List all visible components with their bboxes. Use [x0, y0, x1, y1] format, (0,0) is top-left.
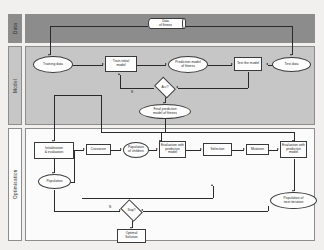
- band-label-data: Data: [8, 14, 22, 43]
- band-label-model-text: Model: [13, 78, 18, 92]
- node-population-next-iteration-label: Population of next iteration: [284, 197, 304, 205]
- arrowhead-crossover: [83, 148, 85, 150]
- arrowhead-selection-feedback: [211, 184, 213, 186]
- flowchart-canvas: Data Model Optimisation N Y: [0, 0, 324, 250]
- node-decision-stop[interactable]: Stop?: [122, 204, 141, 217]
- edge-data-to-testdata-v: [292, 26, 293, 55]
- node-evaluation-children[interactable]: Evaluation with predictive model: [159, 141, 186, 158]
- edge-data-to-training-h: [50, 26, 148, 27]
- edge-final-to-init-h: [54, 95, 101, 96]
- edge-test-down: [248, 72, 249, 88]
- node-prediction-model-of-fitness[interactable]: Prediction model of fitness: [168, 56, 208, 73]
- edge-prediction-to-test: [208, 65, 232, 66]
- arrowhead-test-the-model-left: [266, 63, 268, 65]
- edge-selection-feedback-v: [213, 186, 214, 198]
- band-label-model: Model: [8, 46, 22, 125]
- arrowhead-prediction-model: [165, 63, 167, 65]
- node-selection[interactable]: Selection: [203, 143, 232, 156]
- node-optimal-solution[interactable]: Optimal Solution: [117, 229, 146, 243]
- node-decision-accuracy[interactable]: Acc?: [156, 81, 174, 94]
- edge-eval-to-selection: [186, 150, 201, 151]
- edge-population-to-crossover-h: [74, 182, 75, 183]
- node-training-data-label: Training data: [43, 63, 63, 67]
- node-train-initial-model-label: Train initial model: [113, 60, 129, 68]
- edge-next-return-v: [268, 206, 269, 211]
- arrowhead-decision-accuracy: [176, 86, 178, 88]
- edge-final-down: [165, 119, 166, 132]
- edge-selection-feedback-h: [82, 198, 213, 199]
- edge-acc-no-h: [120, 88, 154, 89]
- node-data-of-fitness[interactable]: Data of fitness: [148, 18, 186, 29]
- arrowhead-test-data: [290, 54, 292, 56]
- node-population[interactable]: Population: [38, 174, 71, 189]
- edge-acc-no-v: [120, 75, 121, 88]
- band-label-data-text: Data: [13, 23, 18, 34]
- node-final-prediction-model[interactable]: Final prediction model of fitness: [139, 104, 191, 119]
- node-evaluation-mutated[interactable]: Evaluation with predictive model: [280, 141, 307, 158]
- edge-train-to-prediction: [137, 65, 166, 66]
- node-population-of-children-label: Population of children: [128, 146, 144, 154]
- node-decision-accuracy-label: Acc?: [162, 86, 169, 90]
- arrowhead-eval-mutated-in: [277, 148, 279, 150]
- node-mutation[interactable]: Mutation: [246, 144, 269, 155]
- arrowhead-eval-children-in: [156, 148, 158, 150]
- edge-training-to-train: [73, 65, 103, 66]
- edge-final-bus-h: [101, 132, 294, 133]
- node-initialisation-evaluation-label: Initialisation & evaluation: [45, 147, 64, 155]
- node-training-data[interactable]: Training data: [33, 56, 73, 73]
- edge-init-drop: [54, 95, 55, 141]
- edge-population-to-stop-v: [54, 190, 55, 211]
- arrowhead-population-children: [120, 148, 122, 150]
- node-final-prediction-model-label: Final prediction model of fitness: [153, 108, 177, 116]
- node-selection-label: Selection: [210, 148, 224, 152]
- node-population-of-children[interactable]: Population of children: [123, 142, 149, 158]
- edge-population-to-stop-h: [54, 211, 120, 212]
- edge-label-stop-no: N: [109, 205, 111, 209]
- node-test-the-model[interactable]: Test the model: [234, 57, 262, 71]
- node-initialisation-evaluation[interactable]: Initialisation & evaluation: [34, 142, 74, 159]
- arrowhead-mutation: [243, 148, 245, 150]
- node-test-data[interactable]: Test data: [272, 57, 311, 72]
- edge-stop-to-next-h: [143, 211, 268, 212]
- node-prediction-model-of-fitness-label: Prediction model of fitness: [175, 61, 200, 69]
- node-data-of-fitness-label: Data of fitness: [159, 20, 175, 27]
- node-evaluation-mutated-label: Evaluation with predictive model: [282, 144, 305, 156]
- node-population-next-iteration[interactable]: Population of next iteration: [270, 192, 317, 209]
- edge-data-to-testdata-h: [186, 26, 292, 27]
- arrowhead-train-initial-model: [102, 63, 104, 65]
- node-train-initial-model[interactable]: Train initial model: [105, 56, 137, 72]
- edge-label-acc-no: N: [131, 90, 133, 94]
- node-test-data-label: Test data: [285, 63, 299, 67]
- node-crossover[interactable]: Crossover: [86, 144, 111, 155]
- node-crossover-label: Crossover: [91, 148, 106, 152]
- band-label-optimisation: Optimisation: [8, 128, 22, 241]
- edge-test-to-diamond: [178, 88, 248, 89]
- edge-data-to-training-v: [50, 26, 51, 55]
- band-label-optimisation-text: Optimisation: [13, 170, 18, 200]
- edge-population-to-crossover-v: [74, 150, 75, 182]
- arrowhead-selection: [200, 148, 202, 150]
- node-evaluation-children-label: Evaluation with predictive model: [161, 144, 184, 156]
- edge-init-to-population: [54, 159, 55, 173]
- node-decision-stop-label: Stop?: [127, 209, 135, 213]
- arrowhead-train-initial-model-feedback: [118, 73, 120, 75]
- edge-final-to-init: [101, 95, 102, 132]
- node-test-the-model-label: Test the model: [237, 62, 259, 66]
- node-mutation-label: Mutation: [251, 148, 264, 152]
- edge-eval2-to-next: [294, 159, 295, 191]
- node-optimal-solution-label: Optimal Solution: [125, 232, 137, 240]
- node-population-label: Population: [46, 180, 62, 184]
- arrowhead-test-the-model: [231, 63, 233, 65]
